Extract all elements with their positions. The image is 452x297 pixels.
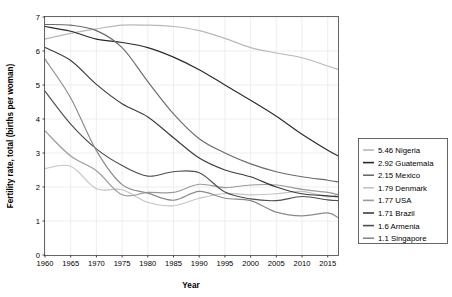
x-tick-label: 1980 [139, 259, 156, 268]
y-tick-label: 7 [36, 13, 40, 22]
legend-item-label[interactable]: 1.71 Brazil [378, 209, 415, 218]
x-tick-label: 2000 [242, 259, 259, 268]
x-tick-label: 1975 [114, 259, 131, 268]
x-tick-label: 1990 [191, 259, 208, 268]
legend-item-label[interactable]: 1.79 Denmark [378, 184, 427, 193]
legend-item-label[interactable]: 5.46 Nigeria [378, 146, 421, 155]
legend-item-label[interactable]: 1.1 Singapore [378, 234, 427, 243]
x-tick-label: 1985 [165, 259, 182, 268]
x-axis-title: Year [182, 281, 200, 290]
x-tick-label: 2010 [294, 259, 311, 268]
x-tick-label: 1960 [37, 259, 54, 268]
y-axis-title: Fertility rate, total (births per woman) [6, 63, 15, 208]
y-tick-label: 2 [36, 183, 40, 192]
chart-legend[interactable]: 5.46 Nigeria2.92 Guatemala2.15 Mexico1.7… [359, 139, 448, 244]
chart-canvas: 1960196519701975198019851990199520002005… [0, 0, 452, 297]
legend-item-label[interactable]: 1.6 Armenia [378, 222, 420, 231]
x-tick-label: 1995 [216, 259, 233, 268]
legend-item-label[interactable]: 2.92 Guatemala [378, 159, 434, 168]
y-tick-label: 4 [36, 115, 40, 124]
y-tick-label: 3 [36, 149, 40, 158]
legend-item-label[interactable]: 1.77 USA [378, 196, 412, 205]
x-tick-label: 1970 [88, 259, 105, 268]
x-tick-label: 2005 [268, 259, 285, 268]
legend-item-label[interactable]: 2.15 Mexico [378, 171, 421, 180]
y-tick-label: 5 [36, 81, 40, 90]
x-tick-label: 2015 [319, 259, 336, 268]
y-tick-label: 6 [36, 47, 40, 56]
x-tick-label: 1965 [62, 259, 79, 268]
y-tick-label: 0 [36, 251, 40, 260]
y-tick-label: 1 [36, 217, 40, 226]
fertility-rate-line-chart: 1960196519701975198019851990199520002005… [0, 0, 452, 297]
